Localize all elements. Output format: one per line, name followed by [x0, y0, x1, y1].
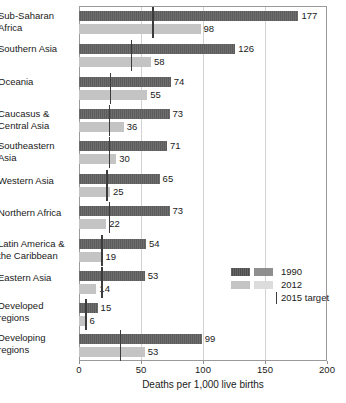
target-marker-8: [101, 267, 102, 298]
legend-item-2015-target: 2015 target: [231, 292, 327, 304]
category-label-line2: regions: [0, 312, 74, 324]
bar-value-1990-10: 99: [205, 334, 216, 344]
bar-2012-7: [79, 252, 103, 262]
category-label-line2: regions: [0, 344, 74, 356]
target-marker-9: [85, 299, 86, 330]
bar-1990-5: [79, 174, 160, 184]
bar-2012-10: [79, 347, 145, 357]
category-label-line1: Sub-Saharan: [0, 10, 74, 22]
target-marker-6: [109, 202, 110, 233]
bar-1990-7: [79, 239, 146, 249]
category-label-line1: Caucasus &: [0, 108, 74, 120]
x-axis-title: Deaths per 1,000 live births: [79, 379, 327, 390]
category-label-latin-america-caribbean: Latin America & the Caribbean: [0, 238, 74, 261]
category-label-eastern-asia: Eastern Asia: [0, 272, 74, 284]
bar-2012-1: [79, 57, 151, 67]
bar-1990-6: [79, 206, 170, 216]
bar-value-2012-2: 55: [150, 90, 161, 100]
bar-value-1990-2: 74: [174, 77, 185, 87]
category-label-developed-regions: Developed regions: [0, 300, 74, 323]
legend-swatch-1990-light: [254, 268, 273, 276]
target-marker-5: [106, 170, 107, 201]
category-label-line2: Central Asia: [0, 120, 74, 132]
bar-value-1990-0: 177: [301, 11, 317, 21]
target-marker-1: [131, 40, 132, 71]
bar-2012-8: [79, 284, 96, 294]
bar-2012-6: [79, 219, 106, 229]
bar-value-2012-0: 98: [204, 24, 215, 34]
gridline-150: [265, 7, 266, 360]
bar-value-2012-4: 30: [119, 154, 130, 164]
legend-swatch-1990-dark: [231, 268, 250, 276]
bar-value-2012-10: 53: [148, 347, 159, 357]
target-marker-4: [109, 137, 110, 168]
bar-2012-0: [79, 24, 201, 34]
bar-2012-2: [79, 90, 147, 100]
category-label-line1: Latin America &: [0, 238, 74, 250]
category-label-northern-africa: Northern Africa: [0, 207, 74, 219]
category-label-line1: Southeastern: [0, 140, 74, 152]
category-label-southern-asia: Southern Asia: [0, 43, 74, 55]
bar-value-1990-1: 126: [238, 44, 254, 54]
bar-1990-0: [79, 11, 298, 21]
bar-value-1990-4: 71: [170, 141, 181, 151]
category-label-oceania: Oceania: [0, 76, 74, 88]
target-marker-7: [101, 235, 102, 266]
category-label-line1: Southern Asia: [0, 43, 74, 55]
bar-2012-4: [79, 154, 116, 164]
legend-swatch-2012-light: [254, 281, 273, 289]
bar-value-1990-5: 65: [163, 174, 174, 184]
category-label-line2: Asia: [0, 152, 74, 164]
legend-item-2012: 2012: [231, 279, 327, 291]
gridline-100: [203, 7, 204, 360]
category-label-western-asia: Western Asia: [0, 175, 74, 187]
bar-1990-1: [79, 44, 235, 54]
bar-1990-4: [79, 141, 167, 151]
bar-1990-8: [79, 271, 145, 281]
bar-1990-3: [79, 109, 170, 119]
category-label-southeastern-asia: Southeastern Asia: [0, 140, 74, 163]
bar-value-2012-9: 6: [89, 316, 94, 326]
target-marker-2: [110, 73, 111, 104]
category-label-line1: Western Asia: [0, 175, 74, 187]
bar-value-1990-6: 73: [173, 206, 184, 216]
category-label-line1: Oceania: [0, 76, 74, 88]
target-marker-3: [109, 105, 110, 136]
legend-swatch-2012-dark: [231, 281, 250, 289]
category-label-sub-saharan-africa: Sub-Saharan Africa: [0, 10, 74, 33]
bar-value-2012-7: 19: [106, 252, 117, 262]
category-label-line1: Northern Africa: [0, 207, 74, 219]
target-marker-0: [152, 7, 153, 38]
bar-1990-10: [79, 334, 202, 344]
bar-1990-9: [79, 303, 98, 313]
bar-value-2012-1: 58: [154, 57, 165, 67]
bar-1990-2: [79, 77, 171, 87]
bar-value-2012-5: 25: [113, 187, 124, 197]
bar-value-2012-6: 22: [109, 219, 120, 229]
target-marker-10: [120, 330, 121, 361]
bar-value-1990-9: 15: [101, 303, 112, 313]
category-label-line2: Africa: [0, 22, 74, 34]
category-label-developing-regions: Developing regions: [0, 332, 74, 355]
legend-target-line-icon: [276, 292, 277, 304]
legend-label-2015-target: 2015 target: [281, 292, 329, 304]
category-label-line1: Developed: [0, 300, 74, 312]
under-five-mortality-chart: Sub-Saharan Africa Southern Asia Oceania…: [0, 0, 346, 403]
bar-value-1990-8: 53: [148, 271, 159, 281]
category-label-caucasus-central-asia: Caucasus & Central Asia: [0, 108, 74, 131]
tick-label-200: 200: [319, 364, 335, 375]
legend-item-1990: 1990: [231, 266, 327, 278]
legend-label-2012: 2012: [281, 279, 302, 291]
bar-2012-3: [79, 122, 124, 132]
tick-label-0: 0: [76, 364, 81, 375]
legend-label-1990: 1990: [281, 266, 302, 278]
tick-label-100: 100: [195, 364, 211, 375]
category-label-line1: Eastern Asia: [0, 272, 74, 284]
bar-value-1990-7: 54: [149, 239, 160, 249]
bar-value-2012-3: 36: [127, 122, 138, 132]
bar-value-1990-3: 73: [173, 109, 184, 119]
tick-label-150: 150: [257, 364, 273, 375]
tick-label-50: 50: [136, 364, 147, 375]
category-label-line1: Developing: [0, 332, 74, 344]
chart-legend: 1990 2012 2015 target: [231, 266, 327, 305]
